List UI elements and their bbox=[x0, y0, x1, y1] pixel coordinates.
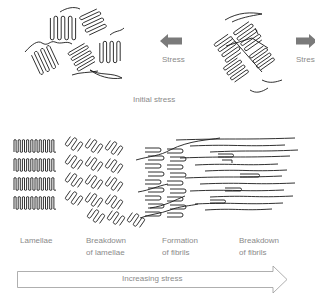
stage-label-lamellae: Lamellae bbox=[20, 235, 52, 247]
fibril-block bbox=[167, 181, 183, 185]
fibril bbox=[200, 183, 295, 184]
polymer-deformation-diagram: Stress Stress Initial stress Lamellae Br… bbox=[0, 0, 315, 300]
fibril bbox=[195, 203, 283, 204]
fibril-block bbox=[145, 148, 161, 152]
tie-chain bbox=[60, 8, 80, 12]
tie-chain bbox=[250, 88, 268, 92]
lamella-block bbox=[127, 213, 144, 228]
stage-label-line1: Lamellae bbox=[20, 235, 52, 247]
unstressed-lamellae-cluster bbox=[25, 8, 124, 79]
stage-label-breakdown-fibrils: Breakdown of fibrils bbox=[239, 235, 279, 259]
fibril bbox=[205, 170, 287, 171]
lamella-block bbox=[87, 209, 104, 224]
stress-label-left: Stress bbox=[162, 55, 185, 65]
fibril-fold bbox=[210, 200, 226, 203]
stage-label-line2: of fibrils bbox=[239, 247, 279, 259]
lamella-block bbox=[85, 157, 102, 172]
lamella-block bbox=[65, 137, 82, 152]
fibril-chain bbox=[150, 196, 185, 208]
fibril-block bbox=[167, 149, 183, 153]
fibril-block bbox=[170, 205, 186, 209]
fibril-fold bbox=[240, 174, 260, 177]
lamella-block bbox=[107, 211, 124, 226]
stress-arrow-left-icon bbox=[160, 34, 182, 48]
stage-label-line1: Breakdown bbox=[86, 235, 126, 247]
fibril-block bbox=[145, 180, 161, 184]
lamella-block bbox=[85, 175, 102, 190]
fibril-block bbox=[167, 165, 183, 169]
fibril bbox=[195, 164, 278, 165]
fibril-fold bbox=[218, 154, 234, 157]
lamella-row bbox=[14, 197, 56, 210]
fibril bbox=[190, 145, 285, 146]
lamella bbox=[100, 41, 120, 62]
fibril-block bbox=[145, 164, 161, 168]
lamella-block bbox=[65, 173, 82, 188]
fibril bbox=[210, 196, 293, 197]
tie-chain bbox=[25, 42, 72, 52]
increasing-stress-label: Increasing stress bbox=[122, 274, 182, 284]
lamella-block bbox=[105, 141, 122, 156]
fibril-block bbox=[145, 196, 161, 200]
fibril-block bbox=[148, 204, 164, 208]
stage-label-line1: Formation bbox=[162, 235, 198, 247]
fibril bbox=[205, 209, 272, 210]
stage-label-formation-fibrils: Formation of fibrils bbox=[162, 235, 198, 259]
tie-chain bbox=[262, 80, 282, 82]
lamella bbox=[32, 46, 59, 75]
fibril-fold bbox=[225, 188, 242, 191]
lamella bbox=[234, 22, 262, 51]
lamella bbox=[250, 46, 275, 70]
lamella-row bbox=[14, 140, 56, 153]
lamella-block bbox=[105, 159, 122, 174]
tie-chain bbox=[225, 13, 262, 22]
stage-label-breakdown-lamellae: Breakdown of lamellae bbox=[86, 235, 126, 259]
tie-chain bbox=[110, 28, 124, 35]
fibril-block bbox=[170, 189, 186, 193]
fibril-block bbox=[167, 213, 183, 217]
lamella-row bbox=[14, 159, 56, 172]
deformation-sequence-drawing bbox=[14, 137, 298, 228]
fibril-block bbox=[170, 173, 186, 177]
lamella-row bbox=[14, 178, 56, 191]
lamella-block bbox=[65, 191, 82, 206]
lamella bbox=[68, 43, 95, 70]
lamella-block bbox=[85, 193, 102, 208]
lamella-block bbox=[85, 139, 102, 154]
stress-arrow-right-icon bbox=[296, 34, 315, 48]
initial-stress-caption: Initial stress bbox=[133, 95, 175, 105]
lamella bbox=[50, 16, 75, 40]
fibril bbox=[185, 176, 282, 178]
fibril bbox=[210, 150, 298, 152]
stage-label-line1: Breakdown bbox=[239, 235, 279, 247]
fibril bbox=[176, 138, 295, 140]
lamella-block bbox=[105, 177, 122, 192]
stage-label-line2: of lamellae bbox=[86, 247, 126, 259]
fibril-fold bbox=[222, 160, 232, 163]
lamella-block bbox=[105, 195, 122, 210]
fibril bbox=[180, 156, 290, 158]
fibril-block bbox=[148, 172, 164, 176]
stress-label-right: Stress bbox=[296, 55, 315, 65]
stressed-lamellae-cluster bbox=[214, 13, 282, 92]
lamella bbox=[80, 9, 106, 35]
lamella-block bbox=[65, 155, 82, 170]
stage-label-line2: of fibrils bbox=[162, 247, 198, 259]
